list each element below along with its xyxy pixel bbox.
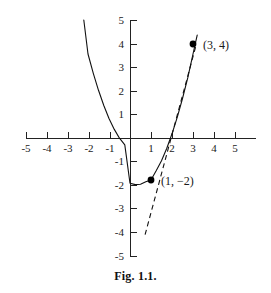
x-tick-label: 5 (232, 142, 238, 154)
point-marker-3-4 (190, 41, 197, 48)
x-tick-label: 1 (148, 142, 154, 154)
y-tick-label: -3 (115, 202, 125, 214)
point-label-1-minus-2: (1, −2) (161, 174, 194, 188)
y-tick-label: -1 (115, 155, 124, 167)
y-tick-label: 2 (119, 85, 125, 97)
y-tick-label: 3 (119, 61, 125, 73)
y-tick-label: 4 (119, 38, 125, 50)
y-tick-label: -2 (115, 179, 124, 191)
point-marker-1-minus-2 (148, 177, 155, 184)
x-tick-label: -4 (42, 142, 52, 154)
figure-caption: Fig. 1.1. (0, 269, 271, 284)
x-tick-label: -1 (105, 142, 114, 154)
y-tick-label: 1 (119, 108, 125, 120)
x-tick-label: -2 (84, 142, 93, 154)
x-tick-label: 4 (211, 142, 217, 154)
x-tick-label: 3 (190, 142, 196, 154)
y-tick-label: -5 (115, 250, 125, 262)
figure-container: -5 -4 -3 -2 -1 1 2 3 4 5 5 4 3 2 1 -1 -2… (0, 0, 271, 293)
y-tick-label: -4 (115, 226, 125, 238)
point-label-3-4: (3, 4) (203, 38, 229, 52)
x-tick-label: 2 (169, 142, 175, 154)
cartesian-plot: -5 -4 -3 -2 -1 1 2 3 4 5 5 4 3 2 1 -1 -2… (0, 0, 271, 293)
y-tick-label: 5 (119, 14, 125, 26)
x-tick-label: -3 (63, 142, 73, 154)
x-tick-label: -5 (21, 142, 31, 154)
parabola-curve (84, 20, 197, 185)
